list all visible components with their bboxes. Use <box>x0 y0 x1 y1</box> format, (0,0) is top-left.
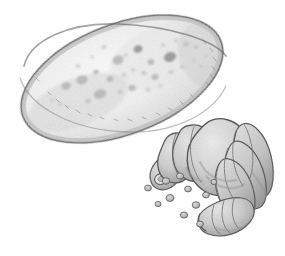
tuber-eye-spot <box>141 71 147 75</box>
tuber-eye-spot <box>161 43 165 47</box>
tuber-eye-spot <box>50 98 54 101</box>
tuber-eye-spot <box>199 65 203 68</box>
frass-pellet <box>197 221 204 227</box>
frass-pellet-body <box>197 221 204 227</box>
tuber-eye-spot <box>124 53 128 56</box>
frass-pellet-body <box>145 185 152 191</box>
tuber-eye-spot <box>192 58 196 61</box>
tuber-eye-spot <box>90 55 94 58</box>
frass-pellet <box>145 185 152 191</box>
frass-pellet <box>192 202 200 209</box>
tuber-eye-spot <box>174 39 178 42</box>
tuber-eye-spot <box>180 65 184 69</box>
frass-pellet-body <box>211 179 217 184</box>
frass-pellet-body <box>176 173 183 179</box>
frass-pellet-body <box>185 186 192 192</box>
frass-pellet <box>180 212 187 218</box>
frass-pellet-body <box>162 178 170 185</box>
frass-pellet-body <box>203 192 210 198</box>
tuber-eye-spot <box>158 84 162 87</box>
tuber-eye-spot <box>58 102 62 106</box>
frass-pellet <box>185 186 192 192</box>
tuber-eye-spot <box>146 88 151 92</box>
tuber-eye-spot <box>117 90 122 94</box>
frass-pellet-body <box>192 202 200 209</box>
frass-pellet-body <box>166 195 174 202</box>
illustration-canvas: Pencil drawing of a spotted oval potato … <box>0 0 285 256</box>
pencil-illustration <box>0 0 285 256</box>
frass-pellet-body <box>180 212 187 218</box>
frass-pellet <box>203 192 210 198</box>
frass-pellet <box>211 179 217 184</box>
frass-pellet <box>162 178 170 185</box>
tuber-eye-spot <box>168 70 173 74</box>
tuber-eye-spot <box>76 64 81 68</box>
frass-pellet <box>176 173 183 179</box>
tuber-eye-spot <box>204 55 207 58</box>
frass-pellet <box>166 195 174 202</box>
tuber-eye-spot <box>131 68 135 72</box>
frass-pellet <box>155 201 161 206</box>
frass-pellet-body <box>155 201 161 206</box>
